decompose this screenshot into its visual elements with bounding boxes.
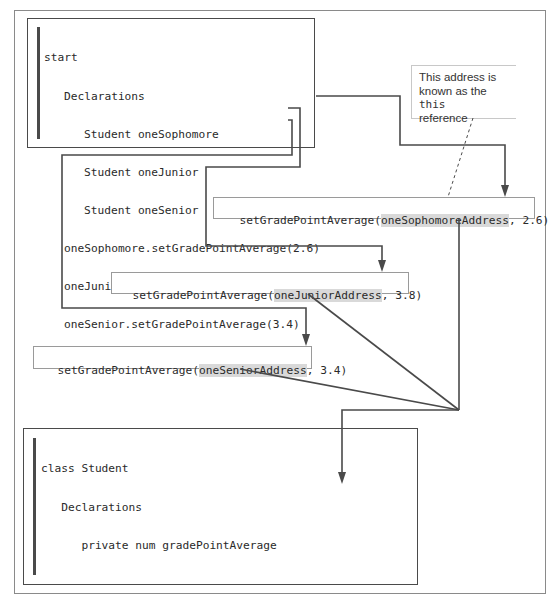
sophomore-call-box: setGradePointAverage(oneSophomoreAddress… <box>213 197 535 219</box>
code-line: start <box>44 52 320 65</box>
senior-address: oneSeniorAddress <box>199 364 307 377</box>
code-line: Declarations <box>41 502 452 515</box>
callout-text: reference <box>419 112 516 126</box>
call-prefix: setGradePointAverage( <box>132 289 273 302</box>
senior-call-box: setGradePointAverage(oneSeniorAddress, 3… <box>33 346 312 369</box>
junior-call-box: setGradePointAverage(oneJuniorAddress, 3… <box>111 272 409 294</box>
blank-line <box>41 578 452 591</box>
block-bar <box>33 438 36 575</box>
class-code: class Student Declarations private num g… <box>41 438 452 607</box>
call-prefix: setGradePointAverage( <box>57 364 198 377</box>
call-suffix: , 3.4) <box>307 364 347 377</box>
callout-text: known as the this <box>419 85 516 112</box>
call-suffix: , 3.8) <box>382 289 422 302</box>
code-line-sophomore-call: oneSophomore.setGradePointAverage(2.6) <box>44 243 320 256</box>
call-prefix: setGradePointAverage( <box>239 214 380 227</box>
this-reference-callout: This address is known as the this refere… <box>411 65 516 119</box>
junior-address: oneJuniorAddress <box>274 289 382 302</box>
class-student-box: class Student Declarations private num g… <box>23 428 418 585</box>
code-line: Student oneSophomore <box>44 129 320 142</box>
code-line-senior-call: oneSenior.setGradePointAverage(3.4) <box>44 319 320 332</box>
call-suffix: , 2.6) <box>509 214 549 227</box>
code-line: class Student <box>41 463 452 476</box>
this-keyword: this <box>419 98 446 111</box>
sophomore-address: oneSophomoreAddress <box>381 214 509 227</box>
block-bar <box>37 27 40 139</box>
main-program-box: start Declarations Student oneSophomore … <box>27 18 315 148</box>
code-line: Student oneJunior <box>44 167 320 180</box>
callout-text: This address is <box>419 71 516 85</box>
code-line: Declarations <box>44 91 320 104</box>
code-line: private num gradePointAverage <box>41 540 452 553</box>
